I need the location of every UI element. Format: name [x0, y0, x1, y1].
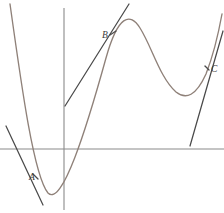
math-figure-canvas: A B C	[0, 0, 224, 213]
figure-svg: A B C	[0, 0, 224, 213]
point-label-b: B	[102, 30, 108, 40]
function-curve	[10, 4, 222, 195]
point-label-c: C	[211, 64, 218, 74]
point-label-a: A	[28, 172, 35, 182]
tangent-at-C	[190, 31, 223, 146]
